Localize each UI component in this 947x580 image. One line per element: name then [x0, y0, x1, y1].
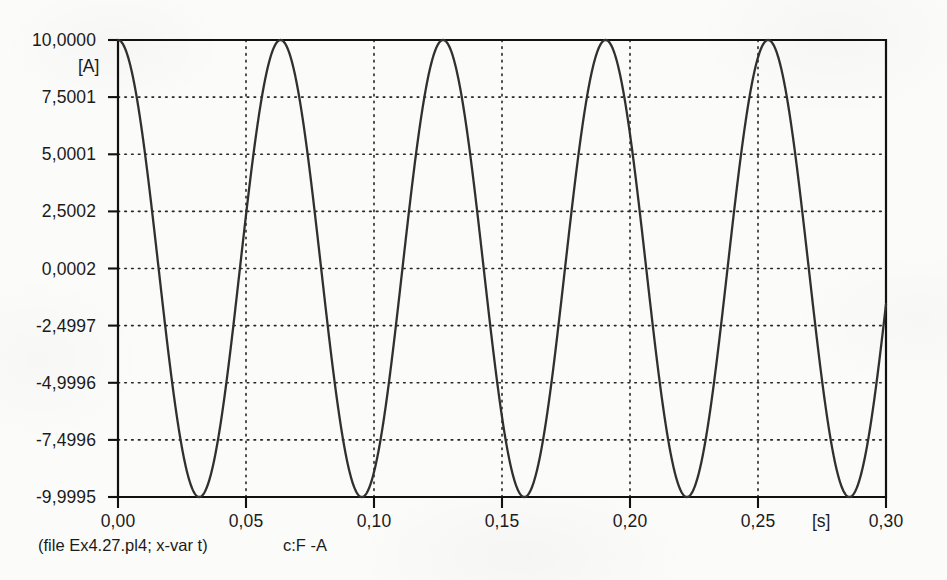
x-axis-unit-label: [s] — [812, 511, 830, 532]
x-tick-label-4: 0,20 — [613, 511, 647, 532]
y-axis-ticks — [108, 40, 118, 497]
y-tick-label-2: 5,0001 — [0, 144, 96, 165]
y-tick-label-4: 0,0002 — [0, 259, 96, 280]
x-tick-label-2: 0,10 — [357, 511, 391, 532]
y-tick-label-8: -9,9995 — [0, 487, 96, 508]
y-tick-label-1: 7,5001 — [0, 87, 96, 108]
file-caption: (file Ex4.27.pl4; x-var t) — [38, 536, 208, 555]
y-tick-label-0: 10,0000 — [0, 30, 96, 51]
chart-screenshot: 10,0000 7,5001 5,0001 2,5002 0,0002 -2,4… — [0, 0, 947, 580]
legend-entry-c-f-a: c:F -A — [283, 536, 327, 555]
x-tick-label-3: 0,15 — [485, 511, 519, 532]
y-axis-unit-label: [A] — [78, 56, 99, 77]
plot-canvas — [0, 0, 947, 580]
y-tick-label-6: -4,9996 — [0, 373, 96, 394]
x-tick-label-1: 0,05 — [229, 511, 263, 532]
x-tick-label-5: 0,25 — [741, 511, 775, 532]
x-tick-label-6: 0,30 — [869, 511, 903, 532]
y-tick-label-5: -2,4997 — [0, 316, 96, 337]
y-tick-label-3: 2,5002 — [0, 201, 96, 222]
y-tick-label-7: -7,4996 — [0, 430, 96, 451]
x-axis-ticks — [118, 497, 886, 508]
x-tick-label-0: 0,00 — [101, 511, 135, 532]
